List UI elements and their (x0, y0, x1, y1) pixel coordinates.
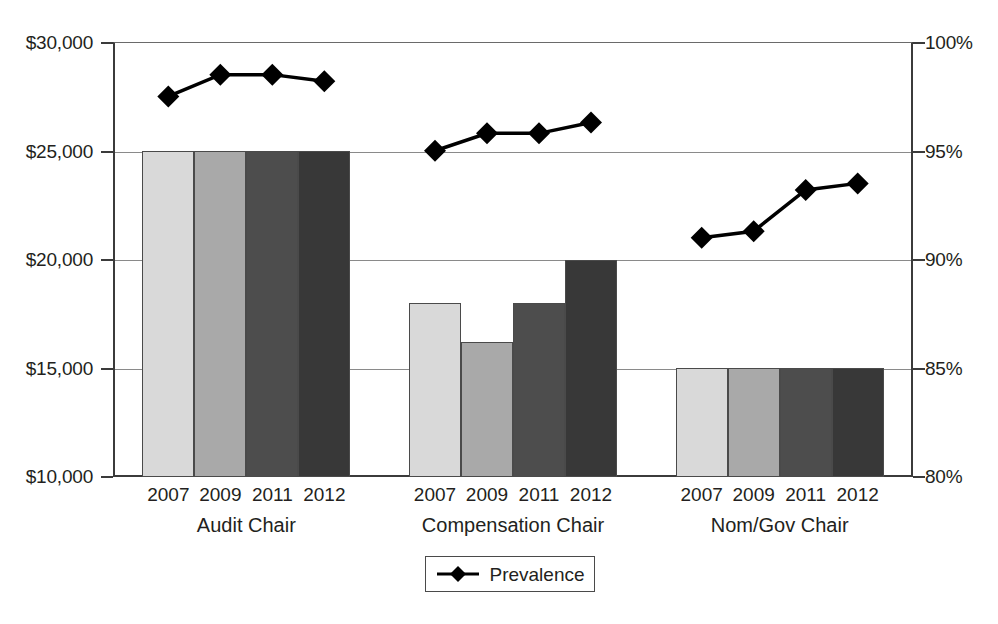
x-axis-year-label: 2012 (561, 484, 621, 506)
tickmark-right-90 (913, 259, 925, 261)
tickmark-right-80 (913, 476, 925, 478)
x-axis-year-label: 2011 (509, 484, 569, 506)
bar (780, 368, 832, 477)
ytick-label-left-3: $15,000 (26, 358, 93, 380)
ytick-label-right-3: 85% (925, 358, 962, 380)
x-axis-year-label: 2009 (190, 484, 250, 506)
bar (565, 260, 617, 478)
bar (409, 303, 461, 477)
scan-artifact-text (60, 2, 680, 16)
bar (142, 151, 194, 477)
bar (676, 368, 728, 477)
ytick-label-left-1: $25,000 (26, 141, 93, 163)
ytick-label-left-2: $20,000 (26, 249, 93, 271)
tickmark-right-85 (913, 368, 925, 370)
tickmark-right-95 (913, 151, 925, 153)
x-axis-year-label: 2009 (724, 484, 784, 506)
bar (194, 151, 246, 477)
bar (246, 151, 298, 477)
ytick-label-right-2: 90% (925, 249, 962, 271)
tickmark-left-15000 (101, 368, 113, 370)
prevalence-marker-icon (435, 564, 481, 584)
x-axis-year-label: 2007 (405, 484, 465, 506)
bar (728, 368, 780, 477)
x-axis-group-label: Audit Chair (116, 514, 376, 537)
x-axis-year-label: 2007 (138, 484, 198, 506)
bar (298, 151, 350, 477)
x-axis-year-label: 2009 (457, 484, 517, 506)
x-axis-year-label: 2012 (828, 484, 888, 506)
ytick-label-right-4: 80% (925, 466, 962, 488)
bar (461, 342, 513, 477)
chart-container: $30,000 $25,000 $20,000 $15,000 $10,000 … (0, 0, 998, 624)
legend-label-prevalence: Prevalence (489, 565, 584, 584)
x-axis-year-label: 2011 (776, 484, 836, 506)
x-axis-group-label: Compensation Chair (383, 514, 643, 537)
ytick-label-left-4: $10,000 (26, 466, 93, 488)
tickmark-left-25000 (101, 151, 113, 153)
ytick-label-right-1: 95% (925, 141, 962, 163)
ytick-label-right-0: 100% (925, 32, 973, 54)
tickmark-left-20000 (101, 259, 113, 261)
x-axis-group-label: Nom/Gov Chair (650, 514, 910, 537)
tickmark-left-30000 (101, 42, 113, 44)
chart-legend: Prevalence (425, 556, 595, 592)
tickmark-left-10000 (101, 476, 113, 478)
bar (513, 303, 565, 477)
x-axis-year-label: 2011 (242, 484, 302, 506)
bar (832, 368, 884, 477)
ytick-label-left-0: $30,000 (26, 32, 93, 54)
tickmark-right-100 (913, 42, 925, 44)
x-axis-year-label: 2012 (294, 484, 354, 506)
x-axis-year-label: 2007 (672, 484, 732, 506)
